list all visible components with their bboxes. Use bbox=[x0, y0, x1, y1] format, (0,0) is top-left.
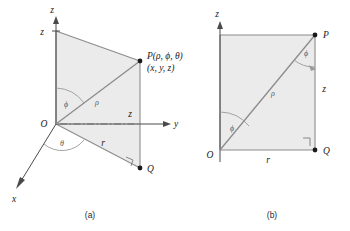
y-axis-arrowhead-a bbox=[163, 121, 171, 127]
phi-label-p-b: ϕ bbox=[304, 49, 308, 58]
z-axis-arrowhead-a bbox=[53, 16, 59, 24]
point-p-dot-a bbox=[138, 59, 143, 64]
rho-label-a: ρ bbox=[94, 98, 99, 107]
diagram-a: z z y x O P(ρ, ϕ, θ) (x, y, z) Q ρ r z ϕ… bbox=[11, 5, 183, 220]
origin-label-b: O bbox=[207, 150, 214, 160]
point-p-dot-b bbox=[313, 33, 318, 38]
point-q-label-a: Q bbox=[147, 164, 154, 174]
point-p-label-b: P bbox=[322, 30, 329, 40]
phi-label-a: ϕ bbox=[64, 100, 68, 109]
theta-label-a: θ bbox=[60, 139, 64, 148]
point-q-dot-b bbox=[313, 148, 318, 153]
point-q-dot-a bbox=[138, 166, 143, 171]
spherical-coordinates-figure: z z y x O P(ρ, ϕ, θ) (x, y, z) Q ρ r z ϕ… bbox=[0, 0, 350, 231]
x-axis-arrowhead-a bbox=[16, 177, 25, 189]
caption-a: (a) bbox=[85, 210, 96, 220]
origin-label-a: O bbox=[41, 119, 48, 129]
z-axis-label-b: z bbox=[214, 9, 219, 19]
x-axis-a bbox=[21, 124, 56, 181]
caption-b: (b) bbox=[267, 210, 278, 220]
r-label-a: r bbox=[101, 138, 105, 148]
r-label-b: r bbox=[266, 155, 270, 165]
z-tick-label-a: z bbox=[39, 27, 44, 37]
point-p-sub-label-a: (x, y, z) bbox=[147, 63, 174, 74]
z-axis-label-a: z bbox=[49, 5, 54, 15]
y-axis-label-a: y bbox=[173, 119, 179, 129]
rho-label-b: ρ bbox=[270, 89, 275, 98]
z-side-label-b: z bbox=[321, 84, 326, 94]
point-q-label-b: Q bbox=[323, 146, 330, 156]
phi-label-origin-b: ϕ bbox=[230, 124, 234, 133]
x-axis-label-a: x bbox=[11, 194, 17, 204]
theta-arc-a bbox=[44, 140, 84, 151]
z-axis-arrowhead-b bbox=[217, 21, 223, 29]
point-p-label-a: P(ρ, ϕ, θ) bbox=[146, 51, 183, 62]
diagram-b: z O P Q ρ r z ϕ ϕ (b) bbox=[207, 9, 330, 220]
z-side-label-a: z bbox=[127, 109, 132, 119]
